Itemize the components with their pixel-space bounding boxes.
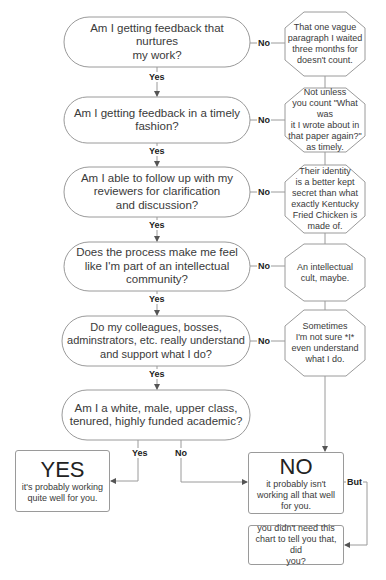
no-label-6: No: [174, 448, 188, 458]
response-5: SometimesI'm not sure *I*even understand…: [285, 310, 365, 376]
response-3: Their identityis a better keptsecret tha…: [285, 165, 365, 233]
yes-label-3: Yes: [148, 220, 166, 230]
no-label-2: No: [257, 115, 271, 125]
yes-label-6: Yes: [131, 448, 149, 458]
outcome-yes-title: YES: [40, 458, 84, 482]
no-label-5: No: [257, 336, 271, 346]
yes-label-4: Yes: [148, 294, 166, 304]
yes-label-1: Yes: [148, 72, 166, 82]
yes-label-5: Yes: [148, 369, 166, 379]
no-label-3: No: [257, 187, 271, 197]
no-label-1: No: [257, 38, 271, 48]
response-4: An intellectualcult, maybe.: [285, 244, 365, 301]
response-1: That one vagueparagraph I waitedthree mo…: [285, 12, 365, 76]
yes-label-2: Yes: [148, 146, 166, 156]
question-6: Am I a white, male, upper class,tenured,…: [62, 390, 250, 440]
final-remark-box: you didn't need this chart to tell you t…: [248, 525, 344, 565]
question-2: Am I getting feedback in a timelyfashion…: [68, 97, 246, 143]
question-1: Am I getting feedback that nurturesmy wo…: [68, 17, 246, 67]
no-label-4: No: [257, 261, 271, 271]
question-4: Does the process make me feellike I'm pa…: [68, 242, 246, 291]
outcome-no-title: NO: [280, 455, 313, 479]
but-label: But: [346, 477, 363, 487]
question-3: Am I able to follow up with myreviewers …: [68, 167, 246, 217]
response-2: Not unlessyou count "What wasit I wrote …: [285, 88, 365, 152]
outcome-yes-box: YES it's probably working quite well for…: [15, 450, 110, 512]
outcome-no-box: NO it probably isn't working all that we…: [248, 452, 344, 514]
question-5: Do my colleagues, bosses,adminstrators, …: [62, 316, 250, 366]
